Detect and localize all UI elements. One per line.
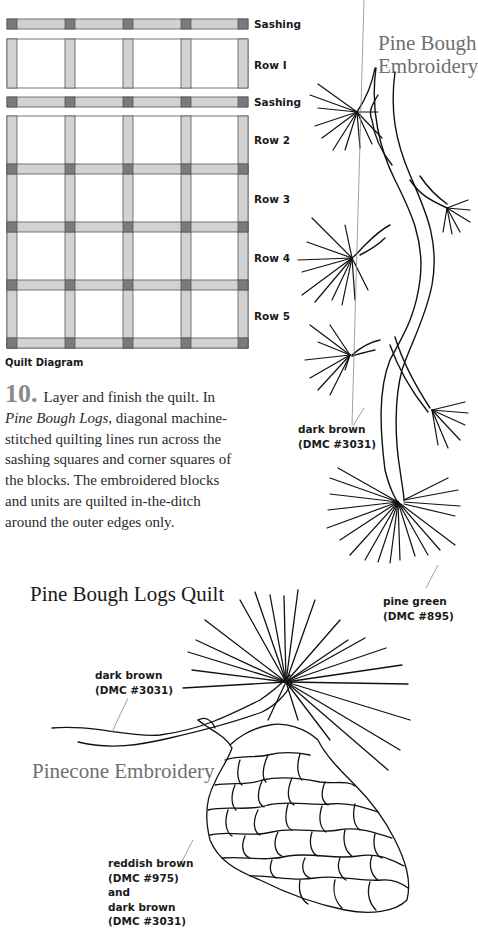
callout-pinecone-colors: reddish brown (DMC #975) and dark brown … bbox=[108, 856, 193, 928]
callout-bough-dark-brown-name: dark brown bbox=[298, 422, 376, 437]
label-row-2: Row 2 bbox=[254, 134, 290, 146]
label-row-4: Row 4 bbox=[254, 252, 290, 264]
callout-branch-dark-brown: dark brown (DMC #3031) bbox=[95, 668, 173, 698]
callout-cone-dark-brown-name: dark brown bbox=[108, 900, 193, 915]
callout-reddish-brown-code: (DMC #975) bbox=[108, 871, 193, 886]
quilt-diagram-caption: Quilt Diagram bbox=[5, 357, 83, 368]
callout-cone-dark-brown-code: (DMC #3031) bbox=[108, 914, 193, 928]
callout-pine-green-name: pine green bbox=[383, 594, 454, 609]
step-number: 10. bbox=[5, 379, 38, 408]
step-lead-text: Layer and finish the quilt. In bbox=[44, 389, 216, 405]
callout-reddish-brown-name: reddish brown bbox=[108, 856, 193, 871]
quilt-diagram: Sashing Row I Sashing Row 2 Row 3 Row 4 … bbox=[0, 0, 300, 360]
pine-bough-title-line2: Embroidery bbox=[378, 55, 464, 78]
instruction-step-10: 10.Layer and finish the quilt. In Pine B… bbox=[5, 384, 240, 533]
callout-pine-green: pine green (DMC #895) bbox=[383, 594, 454, 624]
section-title-pine-bough-logs-quilt: Pine Bough Logs Quilt bbox=[30, 582, 224, 607]
pinecone-title: Pinecone Embroidery bbox=[32, 760, 215, 783]
label-sashing-1: Sashing bbox=[254, 18, 301, 30]
pine-bough-title: Pine Bough Embroidery bbox=[378, 32, 464, 78]
callout-and: and bbox=[108, 885, 193, 900]
quilt-title-italic: Pine Bough Logs bbox=[5, 410, 108, 426]
label-sashing-2: Sashing bbox=[254, 96, 301, 108]
callout-bough-dark-brown: dark brown (DMC #3031) bbox=[298, 422, 376, 452]
label-row-3: Row 3 bbox=[254, 193, 290, 205]
label-row-1: Row I bbox=[254, 59, 287, 71]
callout-bough-dark-brown-code: (DMC #3031) bbox=[298, 437, 376, 452]
callout-branch-name: dark brown bbox=[95, 668, 173, 683]
callout-branch-code: (DMC #3031) bbox=[95, 683, 173, 698]
quilt-diagram-graphic bbox=[0, 0, 300, 360]
callout-pine-green-code: (DMC #895) bbox=[383, 609, 454, 624]
step-rest-text: , diagonal machine-stitched quilting lin… bbox=[5, 410, 231, 530]
pine-bough-title-line1: Pine Bough bbox=[378, 32, 464, 55]
label-row-5: Row 5 bbox=[254, 310, 290, 322]
